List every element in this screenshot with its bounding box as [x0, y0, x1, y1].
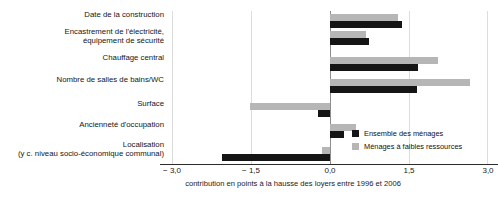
bar-ensemble-3: [330, 86, 417, 93]
bar-ensemble-4: [318, 110, 330, 117]
gridline-neg3: [172, 11, 173, 164]
category-label-2: Chauffage central: [0, 54, 164, 63]
legend-item-0: Ensemble des ménages: [352, 129, 462, 138]
bar-faibles-6: [322, 147, 330, 154]
legend-swatch-icon-1: [352, 143, 359, 150]
category-axis-labels: Date de la construction Encastrement de …: [0, 11, 164, 164]
category-label-6-line2: (y c. niveau socio-économique communal): [0, 150, 164, 159]
category-label-3-line1: Nombre de salles de bains/WC: [0, 76, 164, 85]
category-label-5-line1: Ancienneté d'occupation: [0, 121, 164, 130]
category-label-3: Nombre de salles de bains/WC: [0, 76, 164, 85]
bar-ensemble-5: [330, 131, 344, 138]
gridline-neg1-5: [251, 11, 252, 164]
category-label-0-line1: Date de la construction: [0, 11, 164, 20]
bar-faibles-2: [330, 57, 438, 64]
category-label-4-line1: Surface: [0, 100, 164, 109]
category-label-4: Surface: [0, 100, 164, 109]
bar-ensemble-1: [330, 38, 369, 45]
bar-ensemble-2: [330, 64, 418, 71]
legend-item-1: Ménages à faibles ressources: [352, 142, 462, 151]
category-label-1-line2: équipement de sécurité: [0, 37, 164, 46]
legend-label-1: Ménages à faibles ressources: [364, 142, 462, 151]
gridline-pos3: [487, 11, 488, 164]
category-label-1: Encastrement de l'électricité, équipemen…: [0, 28, 164, 46]
legend-swatch-icon-0: [352, 130, 359, 137]
x-tick-0: − 3,0: [163, 166, 181, 175]
category-label-0: Date de la construction: [0, 11, 164, 20]
x-tick-1: − 1,5: [242, 166, 260, 175]
x-tick-4: 3,0: [482, 166, 493, 175]
category-label-5: Ancienneté d'occupation: [0, 121, 164, 130]
bar-faibles-0: [330, 14, 398, 21]
category-label-2-line1: Chauffage central: [0, 54, 164, 63]
bar-ensemble-6: [222, 154, 330, 161]
chart-container: Date de la construction Encastrement de …: [0, 0, 498, 200]
x-axis-baseline: [160, 164, 498, 165]
chart-legend: Ensemble des ménages Ménages à faibles r…: [352, 129, 462, 155]
x-tick-2: 0,0: [324, 166, 335, 175]
bar-faibles-4: [250, 103, 330, 110]
category-label-6: Localisation (y c. niveau socio-économiq…: [0, 141, 164, 159]
chart-title: [60, 0, 440, 2]
x-axis-caption: contribution en points à la hausse des l…: [0, 179, 498, 188]
legend-label-0: Ensemble des ménages: [364, 129, 443, 138]
bar-faibles-3: [330, 79, 470, 86]
bar-faibles-1: [330, 31, 366, 38]
bar-ensemble-0: [330, 21, 402, 28]
x-tick-3: 1,5: [403, 166, 414, 175]
